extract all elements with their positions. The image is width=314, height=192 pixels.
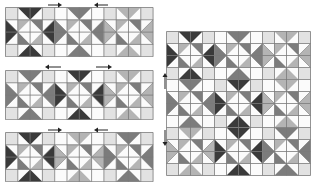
arrow-top-right-icon [48, 2, 62, 8]
arrow-side-up-icon [162, 73, 168, 89]
arrow-bottom-left-icon [94, 127, 108, 133]
arrow-side-down-icon [162, 130, 168, 146]
large-panel [166, 31, 311, 176]
strip-bottom [5, 132, 154, 182]
arrow-middle-left-icon [45, 64, 61, 70]
arrow-middle-right-icon [96, 64, 112, 70]
arrow-bottom-right-icon [48, 127, 62, 133]
arrow-top-left-icon [94, 2, 108, 8]
strip-top [5, 7, 154, 57]
strip-middle [5, 70, 154, 120]
